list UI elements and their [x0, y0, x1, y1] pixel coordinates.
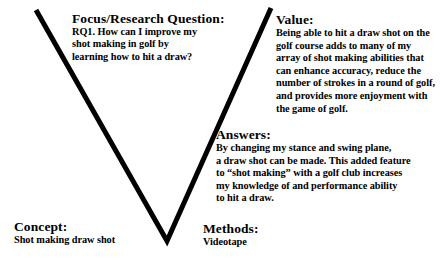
- block-answers-line: my knowledge of and performance ability: [216, 180, 411, 193]
- block-answers: Answers: By changing my stance and swing…: [216, 127, 411, 205]
- block-answers-line: a draw shot can be made. This added feat…: [216, 155, 411, 168]
- block-value-line: can enhance accuracy, reduce the: [276, 65, 435, 78]
- block-value-line: array of shot making abilities that: [276, 52, 435, 65]
- block-value-line: number of strokes in a round of golf,: [276, 77, 435, 90]
- block-focus-heading: Focus/Research Question:: [72, 11, 225, 26]
- block-value-line: the game of golf.: [276, 103, 435, 116]
- vee-diagram-canvas: Focus/Research Question: RQ1. How can I …: [0, 0, 445, 271]
- block-value-line: and provides more enjoyment with: [276, 90, 435, 103]
- block-concept: Concept: Shot making draw shot: [14, 219, 115, 246]
- block-answers-body: By changing my stance and swing plane, a…: [216, 142, 411, 205]
- block-answers-line: By changing my stance and swing plane,: [216, 142, 411, 155]
- block-value-line: Being able to hit a draw shot on the: [276, 27, 435, 40]
- block-concept-heading: Concept:: [14, 219, 115, 234]
- block-methods-body: Videotape: [203, 236, 259, 248]
- block-concept-line: Shot making draw shot: [14, 234, 115, 246]
- block-value-line: golf course adds to many of my: [276, 40, 435, 53]
- block-value: Value: Being able to hit a draw shot on …: [276, 12, 435, 115]
- block-value-body: Being able to hit a draw shot on the gol…: [276, 27, 435, 115]
- block-focus-line: RQ1. How can I improve my: [72, 26, 225, 38]
- block-methods-line: Videotape: [203, 236, 259, 248]
- block-answers-line: to hit a draw.: [216, 192, 411, 205]
- block-methods-heading: Methods:: [203, 221, 259, 236]
- block-methods: Methods: Videotape: [203, 221, 259, 248]
- block-focus-line: shot making in golf by: [72, 38, 225, 50]
- block-answers-line: to “shot making” with a golf club increa…: [216, 167, 411, 180]
- block-focus-research-question: Focus/Research Question: RQ1. How can I …: [72, 11, 225, 63]
- block-focus-body: RQ1. How can I improve my shot making in…: [72, 26, 225, 63]
- block-focus-line: learning how to hit a draw?: [72, 51, 225, 63]
- block-answers-heading: Answers:: [216, 127, 411, 142]
- block-concept-body: Shot making draw shot: [14, 234, 115, 246]
- block-value-heading: Value:: [276, 12, 435, 27]
